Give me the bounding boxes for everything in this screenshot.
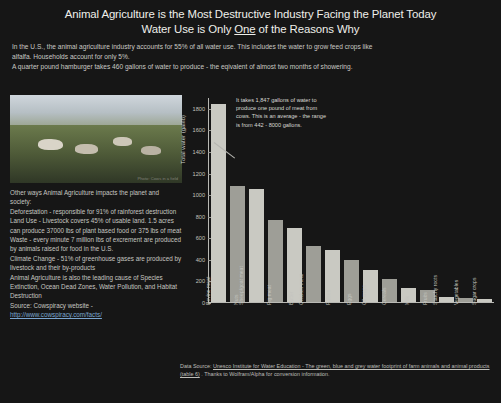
cow-shape [38,139,64,150]
bar-slot: Oil crops [361,98,380,302]
y-axis-tick: 800 [196,214,208,220]
source-prefix: Data Source: [180,363,213,369]
x-axis-tick-label: Vegetables [453,280,459,305]
x-axis-tick-label: Fruits [421,292,427,305]
bar-slot: Sugar crops [475,98,494,302]
x-axis-tick-label: Milk [404,296,410,305]
source-suffix: . Thanks to Wolfram/Alpha for conversion… [200,371,330,377]
fact-deforestation: Deforestation - responsible for 91% of r… [10,207,182,216]
infographic-poster: Animal Agriculture is the Most Destructi… [0,0,501,403]
x-axis-tick-label: Bovine meat [204,277,210,305]
x-axis-tick-label: Sugar crops [471,278,477,305]
x-axis-tick-label: Butter [288,291,294,305]
x-axis-tick-label: Starchy roots [431,275,437,305]
title-segment-b: of the Reasons Why [256,23,360,35]
facts-source-label: Source: Cowspiracy website - [10,302,93,309]
y-axis-tick: 1000 [193,192,208,198]
y-axis-tick: 1800 [193,106,208,112]
cow-shape [113,137,132,146]
bar[interactable] [249,189,263,302]
chart-annotation: It takes 1,847 gallons of water to produ… [236,96,328,129]
x-axis-tick-label: Pig meat [265,285,271,305]
photo-sky [10,95,182,127]
facts-source-url-row: http://www.cowspiracy.com/facts/ [10,310,182,319]
bar[interactable] [477,299,491,302]
intro-line-1: In the U.S., the animal agriculture indu… [12,42,489,52]
bar[interactable] [306,246,320,302]
facts-heading: Other ways Animal Agriculture impacts th… [10,188,182,207]
bar-slot: Starchy roots [437,98,456,302]
cowspiracy-link[interactable]: http://www.cowspiracy.com/facts/ [10,311,102,318]
poster-title-line-2: Water Use is Only One of the Reasons Why [14,22,487,37]
fact-waste: Waste - every minute 7 million lbs of ex… [10,235,182,254]
x-axis-tick-label: Eggs [346,293,352,305]
water-use-bar-chart: Total water (gal/lb) 0200400600800100012… [180,92,496,360]
intro-line-3: A quarter pound hamburger takes 460 gall… [12,62,489,72]
y-axis-tick: 1400 [193,149,208,155]
poster-header: Animal Agriculture is the Most Destructi… [0,0,501,38]
y-axis-tick: 1200 [193,171,208,177]
intro-line-2: alfalfa. Households account for only 5%. [12,52,489,62]
chart-data-source: Data Source: Unesco Institute for Water … [180,362,496,378]
title-segment-a: Water Use is Only [142,23,235,35]
y-axis-tick: 400 [196,257,208,263]
y-axis-tick: 600 [196,235,208,241]
bar-slot: Milk [399,98,418,302]
title-segment-underlined: One [234,23,255,35]
bar-slot: Eggs [342,98,361,302]
poster-title-line-1: Animal Agriculture is the Most Destructi… [14,7,487,22]
bar-slot: Fruits [418,98,437,302]
cow-shape [141,146,162,155]
x-axis-tick-label: Chicken meat [298,274,304,305]
bar-slot: Vegetables [456,98,475,302]
y-axis-tick: 1600 [193,127,208,133]
cow-pasture-photo: Photo: Cows in a field [10,95,182,183]
x-axis-tick-label: Cereals [381,287,387,305]
facts-source: Source: Cowspiracy website - [10,301,182,310]
x-axis-tick-label: Pulses [325,290,331,305]
bar[interactable] [439,297,453,302]
cow-shape [75,144,97,154]
impact-facts-list: Other ways Animal Agriculture impacts th… [10,188,182,320]
fact-climate-change: Climate Change - 51% of greenhouse gases… [10,254,182,273]
bar[interactable] [211,104,225,302]
fact-land-use: Land Use - Livestock covers 45% of usabl… [10,216,182,235]
intro-paragraph: In the U.S., the animal agriculture indu… [0,38,501,73]
fact-other-impacts: Animal Agriculture is also the leading c… [10,273,182,301]
photo-credit: Photo: Cows in a field [137,176,178,181]
x-axis-tick-label: Oil crops [360,285,366,305]
bar-slot: Cereals [380,98,399,302]
x-axis-tick-label: Sheep/goat meat [237,266,243,305]
left-column: Photo: Cows in a field Other ways Animal… [10,95,182,320]
y-axis-label: Total water (gal/lb) [180,115,186,164]
bar-slot: Bovine meat [209,98,228,302]
